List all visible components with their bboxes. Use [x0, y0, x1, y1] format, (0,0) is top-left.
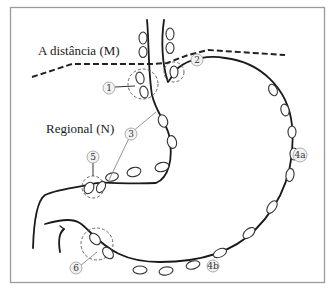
station-4a-badge: 4a [293, 148, 307, 162]
lymph-node [139, 47, 147, 58]
lymph-node [139, 85, 150, 99]
svg-text:3: 3 [128, 129, 134, 139]
lymph-node [133, 266, 147, 274]
lymph-node [166, 43, 174, 54]
station-2-badge: 2 [191, 54, 203, 66]
lymph-node [135, 71, 146, 85]
lymph-node [285, 168, 295, 182]
lymph-node [157, 113, 170, 128]
station-1-badge: 1 [103, 82, 115, 94]
stomach-lymph-node-diagram: 1 2 3 5 6 4b [0, 0, 334, 291]
lymph-node [139, 32, 147, 44]
station-5-badge: 5 [87, 151, 99, 163]
svg-text:2: 2 [194, 55, 200, 65]
lymph-node [212, 246, 228, 259]
station-3-badge: 3 [125, 128, 137, 140]
svg-text:4b: 4b [207, 261, 219, 271]
lymph-node [280, 103, 291, 117]
lymph-node [166, 135, 178, 150]
lymph-node [288, 126, 296, 138]
svg-text:4a: 4a [294, 150, 306, 160]
lymph-node [166, 28, 174, 40]
svg-text:1: 1 [106, 83, 112, 93]
svg-text:5: 5 [90, 152, 96, 162]
lymph-node [170, 66, 178, 78]
lymph-node [267, 83, 279, 97]
lymph-node [100, 245, 115, 261]
lymph-node [241, 225, 257, 240]
svg-text:6: 6 [73, 263, 79, 273]
lymph-node [87, 231, 102, 247]
stomach-greater-curvature [45, 58, 293, 262]
distant-label: A distância (M) [38, 43, 120, 58]
lymph-node [158, 266, 173, 276]
stomach-lesser-curvature [33, 185, 88, 248]
station-6-leader [80, 252, 97, 266]
station-1-leader [115, 86, 135, 87]
regional-label: Regional (N) [46, 121, 114, 136]
station-4b-badge: 4b [207, 260, 219, 272]
station-6-badge: 6 [70, 262, 82, 274]
lymph-node [126, 166, 142, 178]
